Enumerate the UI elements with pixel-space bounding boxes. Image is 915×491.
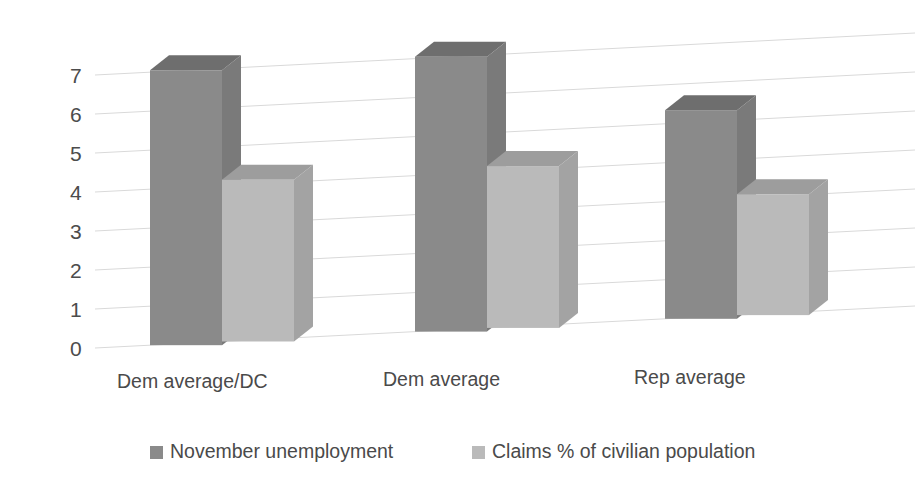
bar-chart: 7 6 5 4 3 2 1 0 Dem average/DC Dem avera… xyxy=(0,0,915,491)
category-label-2: Rep average xyxy=(634,368,746,388)
bar-2-1 xyxy=(737,179,828,315)
legend-swatch-icon-0 xyxy=(150,446,163,459)
chart-legend: November unemployment Claims % of civili… xyxy=(0,437,915,467)
bar-1-1 xyxy=(487,151,578,328)
legend-item-claims-pct-civilian-population[interactable]: Claims % of civilian population xyxy=(472,442,755,462)
legend-label-1: Claims % of civilian population xyxy=(492,442,755,462)
bar-series-group xyxy=(0,0,915,420)
category-label-0: Dem average/DC xyxy=(117,372,268,392)
legend-label-0: November unemployment xyxy=(170,442,393,462)
legend-swatch-icon-1 xyxy=(472,446,485,459)
category-label-1: Dem average xyxy=(383,370,500,390)
legend-item-november-unemployment[interactable]: November unemployment xyxy=(150,442,393,462)
x-axis-category-labels: Dem average/DC Dem average Rep average xyxy=(0,366,915,402)
plot-area: 7 6 5 4 3 2 1 0 xyxy=(0,0,915,420)
bar-0-1 xyxy=(222,165,313,342)
